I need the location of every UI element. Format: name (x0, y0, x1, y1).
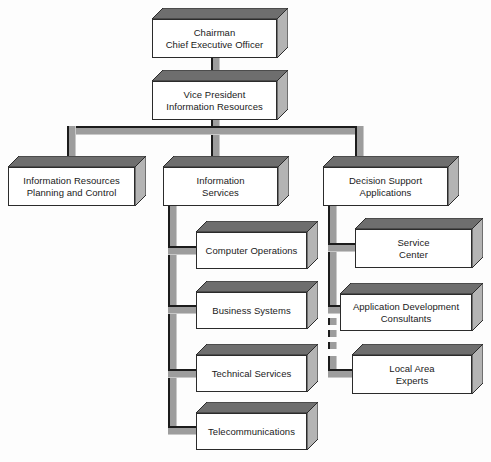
node-vice-president-face: Vice President Information Resources (152, 81, 277, 120)
node-service-center-label: Service Center (393, 237, 433, 260)
node-decision-support-applications[interactable]: Decision Support Applications (323, 156, 459, 206)
node-computer-operations-label: Computer Operations (202, 245, 302, 257)
connector-info-services-spine (168, 199, 177, 435)
node-business-systems-label: Business Systems (208, 305, 294, 317)
node-information-services-label: Information Services (192, 175, 248, 198)
node-planning-and-control-label: Information Resources Planning and Contr… (19, 175, 124, 198)
node-decision-support-applications-face: Decision Support Applications (323, 167, 448, 206)
node-chairman-label: Chairman Chief Executive Officer (162, 27, 268, 50)
node-business-systems-face: Business Systems (196, 292, 307, 329)
node-local-area-experts[interactable]: Local Area Experts (352, 344, 483, 394)
node-service-center[interactable]: Service Center (355, 218, 483, 268)
node-vice-president[interactable]: Vice President Information Resources (152, 70, 288, 120)
node-technical-services[interactable]: Technical Services (196, 344, 318, 392)
node-telecommunications-face: Telecommunications (196, 413, 307, 450)
connector-decision-support-spine-dashed (328, 318, 337, 358)
node-planning-and-control-face: Information Resources Planning and Contr… (8, 167, 135, 206)
node-service-center-face: Service Center (355, 229, 472, 268)
node-local-area-experts-face: Local Area Experts (352, 355, 472, 394)
node-technical-services-face: Technical Services (196, 355, 307, 392)
node-vice-president-label: Vice President Information Resources (162, 89, 267, 112)
node-business-systems[interactable]: Business Systems (196, 281, 318, 329)
node-computer-operations[interactable]: Computer Operations (196, 221, 318, 269)
node-chairman[interactable]: Chairman Chief Executive Officer (152, 8, 288, 58)
node-technical-services-label: Technical Services (208, 368, 296, 380)
node-telecommunications[interactable]: Telecommunications (196, 402, 318, 450)
node-information-services[interactable]: Information Services (163, 156, 289, 206)
org-chart-diagram: Chairman Chief Executive Officer Vice Pr… (0, 0, 491, 462)
node-local-area-experts-label: Local Area Experts (385, 363, 438, 386)
node-planning-and-control[interactable]: Information Resources Planning and Contr… (8, 156, 146, 206)
node-information-services-face: Information Services (163, 167, 278, 206)
connector-trunk-bus (67, 126, 364, 135)
node-decision-support-applications-label: Decision Support Applications (345, 175, 426, 198)
node-application-development-consultants-face: Application Development Consultants (340, 294, 472, 331)
node-application-development-consultants[interactable]: Application Development Consultants (340, 283, 483, 331)
node-chairman-face: Chairman Chief Executive Officer (152, 19, 277, 58)
node-application-development-consultants-label: Application Development Consultants (349, 301, 463, 324)
node-telecommunications-label: Telecommunications (204, 426, 299, 438)
connector-decision-support-spine-upper (328, 199, 337, 314)
node-computer-operations-face: Computer Operations (196, 232, 307, 269)
